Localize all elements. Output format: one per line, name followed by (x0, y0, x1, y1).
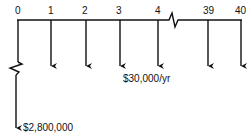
period-label-1: 1 (48, 6, 54, 16)
period-label-39: 39 (203, 6, 214, 16)
period-label-3: 3 (116, 6, 122, 16)
cash-flow-diagram (0, 0, 249, 140)
period-label-0: 0 (15, 6, 21, 16)
initial-flow-label: $2,800,000 (23, 123, 73, 133)
period-label-40: 40 (235, 6, 246, 16)
period-label-4: 4 (155, 6, 161, 16)
period-label-2: 2 (82, 6, 88, 16)
annual-flow-label: $30,000/yr (123, 74, 170, 84)
annual-flow-arrows (51, 20, 241, 66)
initial-cost-arrow (10, 20, 22, 128)
